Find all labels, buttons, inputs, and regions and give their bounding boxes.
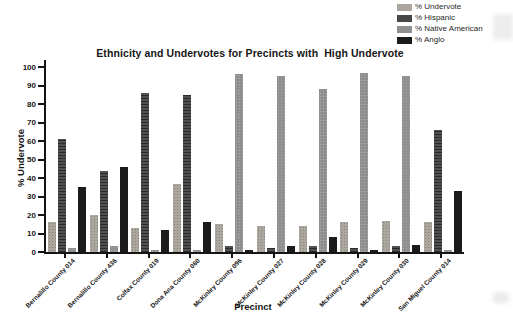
x-category-label: McKinley County 029 — [296, 257, 368, 329]
bar-anglo — [245, 250, 253, 252]
x-tick-mark — [148, 254, 150, 258]
bar-anglo — [329, 237, 337, 252]
x-category-label: McKinley County 030 — [338, 257, 410, 329]
y-tick-label: 60 — [10, 137, 36, 146]
bar-native-american — [235, 74, 243, 252]
bar-group — [47, 139, 87, 252]
y-tick-mark — [38, 214, 44, 216]
bar-undervote — [215, 224, 223, 252]
legend-label: % Hispanic — [415, 14, 455, 22]
bar-group — [381, 76, 421, 252]
y-tick-label: 10 — [10, 229, 36, 238]
scan-artifact — [493, 14, 513, 40]
bar-undervote — [257, 226, 265, 252]
x-category-label: McKinley County 027 — [213, 257, 285, 329]
x-tick-mark — [315, 254, 317, 258]
bar-anglo — [161, 230, 169, 252]
y-tick-label: 30 — [10, 192, 36, 201]
bar-undervote — [90, 215, 98, 252]
x-category-label: McKinley County 096 — [171, 257, 243, 329]
legend-swatch-anglo — [397, 37, 412, 44]
bar-native-american — [402, 76, 410, 252]
y-tick-label: 70 — [10, 118, 36, 127]
y-tick-mark — [38, 159, 44, 161]
y-tick-mark — [38, 103, 44, 105]
bar-hispanic — [225, 246, 233, 252]
x-category-label: McKinley County 028 — [255, 257, 327, 329]
bar-anglo — [454, 191, 462, 252]
chart-title: Ethnicity and Undervotes for Precincts w… — [50, 47, 450, 59]
bar-anglo — [412, 245, 420, 252]
bar-native-american — [360, 73, 368, 252]
legend-swatch-native-american — [397, 26, 412, 33]
y-tick-mark — [38, 251, 44, 253]
bar-hispanic — [267, 248, 275, 252]
bar-group — [256, 76, 296, 252]
bar-group — [339, 73, 379, 252]
bar-group — [214, 74, 254, 252]
legend-label: % Anglo — [415, 36, 444, 44]
bar-native-american — [151, 250, 159, 252]
bar-undervote — [340, 222, 348, 252]
legend-item-native-american: % Native American — [397, 25, 483, 33]
x-tick-mark — [64, 254, 66, 258]
y-tick-label: 100 — [10, 63, 36, 72]
bar-hispanic — [141, 93, 149, 252]
bar-undervote — [424, 222, 432, 252]
legend-swatch-hispanic — [397, 15, 412, 22]
y-tick-mark — [38, 85, 44, 87]
legend-item-hispanic: % Hispanic — [397, 14, 483, 22]
bar-hispanic — [309, 246, 317, 252]
x-tick-mark — [273, 254, 275, 258]
bar-undervote — [173, 184, 181, 252]
bar-native-american — [193, 250, 201, 252]
x-category-label: Bernalillo County 436 — [46, 257, 118, 329]
y-tick-mark — [38, 140, 44, 142]
legend-label: % Native American — [415, 25, 483, 33]
bar-hispanic — [58, 139, 66, 252]
x-tick-mark — [189, 254, 191, 258]
bar-undervote — [299, 226, 307, 252]
x-category-label: Bernalillo County 014 — [4, 257, 76, 329]
y-tick-mark — [38, 233, 44, 235]
bar-hispanic — [434, 130, 442, 252]
x-category-label: Dona Ana County 060 — [129, 257, 201, 329]
bar-undervote — [48, 222, 56, 252]
legend-label: % Undervote — [415, 3, 461, 11]
bar-group — [298, 89, 338, 252]
bar-group — [89, 167, 129, 252]
y-tick-label: 50 — [10, 155, 36, 164]
bar-native-american — [444, 250, 452, 252]
bar-anglo — [78, 187, 86, 252]
bar-anglo — [203, 222, 211, 252]
bar-undervote — [131, 228, 139, 252]
chart-legend: % Undervote% Hispanic% Native American% … — [397, 3, 483, 47]
y-tick-mark — [38, 122, 44, 124]
legend-item-undervote: % Undervote — [397, 3, 483, 11]
y-tick-label: 90 — [10, 81, 36, 90]
bar-native-american — [68, 248, 76, 252]
y-tick-mark — [38, 66, 44, 68]
x-category-label: San Miguel County 014 — [380, 257, 452, 329]
plot-area — [44, 60, 464, 254]
x-tick-mark — [398, 254, 400, 258]
bar-native-american — [277, 76, 285, 252]
y-tick-mark — [38, 196, 44, 198]
bar-group — [172, 95, 212, 252]
chart-figure: % Undervote% Hispanic% Native American% … — [0, 0, 513, 336]
bar-hispanic — [350, 248, 358, 252]
bar-anglo — [120, 167, 128, 252]
bar-group — [130, 93, 170, 252]
bar-native-american — [319, 89, 327, 252]
x-tick-mark — [106, 254, 108, 258]
bar-hispanic — [100, 171, 108, 252]
bar-native-american — [110, 246, 118, 252]
bar-hispanic — [183, 95, 191, 252]
y-tick-label: 40 — [10, 174, 36, 183]
bar-anglo — [370, 250, 378, 252]
legend-swatch-undervote — [397, 4, 412, 11]
x-category-label: Colfax County 019 — [87, 257, 159, 329]
x-tick-mark — [231, 254, 233, 258]
y-tick-label: 0 — [10, 248, 36, 257]
x-tick-mark — [440, 254, 442, 258]
